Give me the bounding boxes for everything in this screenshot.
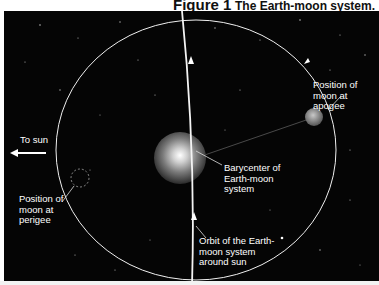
bottom-border (0, 281, 379, 285)
barycenter-label: Barycenter of Earth-moon system (224, 163, 281, 195)
orbit-label: Orbit of the Earth- moon system around s… (199, 236, 275, 268)
arrow-icon (304, 58, 310, 64)
diagram-canvas (4, 11, 379, 281)
to-sun-label: To sun (20, 135, 48, 146)
diagram-art (4, 11, 379, 281)
perigee-label: Position of moon at perigee (19, 194, 63, 226)
earth (154, 132, 206, 184)
arrow-up-icon (191, 212, 197, 220)
arrow-up-icon (188, 56, 194, 64)
moon-perigee (71, 169, 89, 187)
arrow-left-icon (10, 149, 18, 157)
apogee-label: Position of moon at apogee (313, 80, 357, 112)
